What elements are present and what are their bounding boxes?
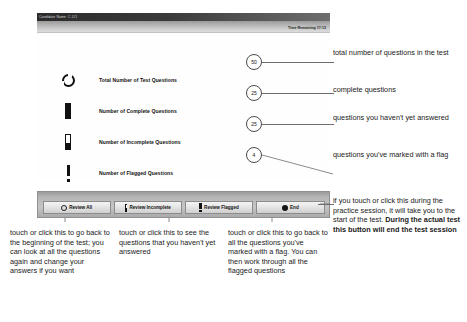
legend-label-total: Total Number of Test Questions bbox=[99, 77, 177, 83]
legend-area: Total Number of Test Questions Number of… bbox=[37, 33, 330, 180]
legend-row-incomplete: Number of Incomplete Questions bbox=[37, 127, 330, 157]
annotation-flagged: questions you've marked with a flag bbox=[333, 150, 461, 160]
window-title-bar: Candidate Name: C J#1 bbox=[37, 13, 330, 21]
counter-incomplete-questions: 25 bbox=[246, 116, 262, 132]
legend-label-complete: Number of Complete Questions bbox=[99, 108, 177, 114]
review-flagged-label: Review Flagged bbox=[204, 205, 239, 210]
ring-icon bbox=[37, 74, 99, 87]
time-remaining-label: Time Remaining 17:13 bbox=[288, 25, 326, 32]
annotation-end: if you touch or click this during the pr… bbox=[333, 196, 465, 234]
review-all-button[interactable]: Review All bbox=[43, 201, 111, 214]
half-filled-bar-icon bbox=[37, 134, 99, 150]
annotation-review-all: touch or click this to go back to the be… bbox=[10, 228, 110, 276]
legend-row-flagged: Number of Flagged Questions bbox=[37, 158, 330, 188]
review-flagged-button[interactable]: Review Flagged bbox=[185, 201, 253, 214]
test-review-screen: Candidate Name: C J#1 Time Remaining 17:… bbox=[37, 13, 330, 179]
legend-label-incomplete: Number of Incomplete Questions bbox=[99, 139, 181, 145]
filled-dot-icon bbox=[282, 205, 288, 211]
review-incomplete-label: Review Incomplete bbox=[129, 205, 170, 210]
annotation-review-incomplete: touch or click this to see the questions… bbox=[119, 228, 221, 257]
end-label: End bbox=[290, 205, 299, 210]
annotation-review-flagged: touch or click this to go back to all th… bbox=[228, 228, 328, 276]
candidate-name-label: Candidate Name: C J#1 bbox=[39, 13, 77, 21]
ring-icon bbox=[61, 205, 67, 211]
status-bar: Time Remaining 17:13 bbox=[37, 21, 330, 33]
filled-bar-icon bbox=[37, 103, 99, 119]
counter-flagged-questions: 4 bbox=[246, 147, 262, 163]
end-button[interactable]: End bbox=[256, 201, 324, 214]
leader-line-end bbox=[318, 204, 334, 205]
exclamation-icon bbox=[37, 165, 99, 182]
counter-complete-questions: 25 bbox=[246, 85, 262, 101]
leader-line-complete bbox=[262, 93, 334, 94]
review-all-label: Review All bbox=[69, 205, 92, 210]
review-button-bar: Review All Review Incomplete Review Flag… bbox=[37, 191, 330, 218]
legend-label-flagged: Number of Flagged Questions bbox=[99, 170, 173, 176]
legend-row-complete: Number of Complete Questions bbox=[37, 96, 330, 126]
annotation-total: total number of questions in the test bbox=[333, 48, 461, 58]
half-filled-bar-icon bbox=[125, 204, 128, 212]
exclamation-icon bbox=[199, 203, 202, 212]
leader-line-total bbox=[262, 62, 334, 63]
annotation-complete: complete questions bbox=[333, 85, 461, 95]
leader-line-incomplete bbox=[262, 124, 334, 125]
annotation-incomplete: questions you haven't yet answered bbox=[333, 113, 461, 123]
counter-total-questions: 50 bbox=[246, 54, 262, 70]
review-incomplete-button[interactable]: Review Incomplete bbox=[114, 201, 182, 214]
legend-row-total: Total Number of Test Questions bbox=[37, 65, 330, 95]
